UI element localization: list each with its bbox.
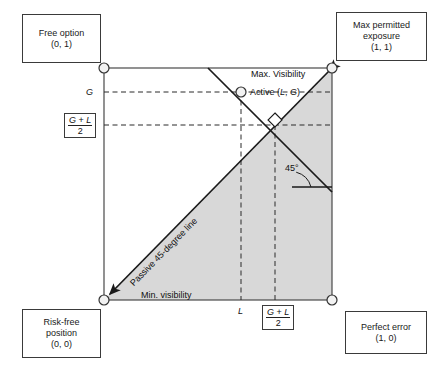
- callout-risk-free-line1: Risk-free: [43, 317, 79, 328]
- corner-point-top-right[interactable]: [327, 63, 337, 73]
- active-point-marker[interactable]: [236, 87, 246, 97]
- callout-risk-free-line2: position: [46, 328, 77, 339]
- corner-point-bottom-left[interactable]: [99, 295, 109, 305]
- callout-max-permitted-exposure: Max permitted exposure (1, 1): [336, 12, 427, 61]
- axis-label-midpoint-horizontal: G + L 2: [262, 305, 294, 330]
- axis-label-l: L: [238, 306, 243, 316]
- midpoint-horizontal-denominator: 2: [276, 318, 281, 328]
- callout-perfect-error-line2: (1, 0): [375, 333, 396, 344]
- callout-perfect-error-line1: Perfect error: [361, 322, 411, 333]
- corner-point-top-left[interactable]: [99, 63, 109, 73]
- label-min-visibility: Min. visibility: [141, 290, 192, 300]
- callout-perfect-error: Perfect error (1, 0): [345, 311, 427, 354]
- callout-free-option: Free option (0, 1): [22, 14, 101, 63]
- callout-risk-free-position: Risk-free position (0, 0): [22, 309, 101, 358]
- label-max-visibility: Max. Visibility: [251, 69, 305, 79]
- midpoint-horizontal-numerator: G + L: [266, 307, 290, 318]
- midpoint-vertical-numerator: G + L: [68, 115, 92, 126]
- callout-max-permitted-line1: Max permitted: [353, 20, 410, 31]
- axis-label-g: G: [86, 87, 93, 97]
- figure-canvas: Free option (0, 1) Max permitted exposur…: [0, 0, 434, 369]
- callout-free-option-line1: Free option: [39, 28, 85, 39]
- label-45-degree-angle: 45°: [285, 163, 299, 173]
- callout-risk-free-line3: (0, 0): [51, 339, 72, 350]
- callout-free-option-line2: (0, 1): [51, 39, 72, 50]
- axis-label-midpoint-vertical: G + L 2: [64, 113, 96, 138]
- corner-point-bottom-right[interactable]: [327, 295, 337, 305]
- midpoint-vertical-denominator: 2: [78, 126, 83, 136]
- callout-max-permitted-line2: exposure: [363, 31, 400, 42]
- callout-max-permitted-line3: (1, 1): [371, 42, 392, 53]
- label-active-point: Active (L, G): [250, 87, 300, 97]
